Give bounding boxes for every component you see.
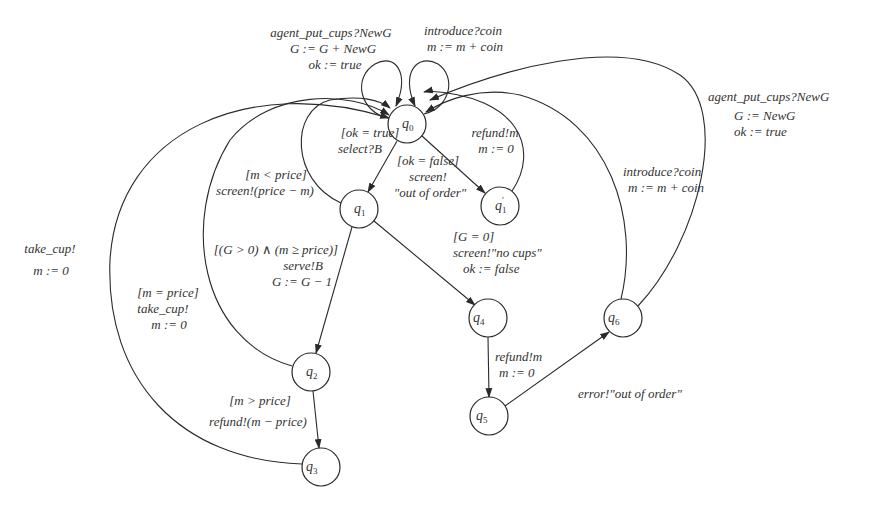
state-q4[interactable]: q 4 xyxy=(469,299,507,337)
nodes: q 0 q 1 q 1 ′ q 2 q 3 q 4 xyxy=(292,105,642,486)
label-q6-q0-coin-2: m := m + coin xyxy=(628,180,704,195)
state-q6-sub: 6 xyxy=(615,317,620,327)
edge-q2-q3 xyxy=(313,391,319,448)
label-q1-q2-2: serve!B xyxy=(283,258,323,273)
label-q1-q0-2: screen!(price − m) xyxy=(216,183,314,198)
state-diagram: q 0 q 1 q 1 ′ q 2 q 3 q 4 xyxy=(0,0,878,512)
label-q0-put-cups-2: G := G + NewG xyxy=(290,41,377,56)
state-q0-label: q xyxy=(402,116,409,131)
edge-q3-q0 xyxy=(110,104,389,464)
label-q4-q5-1: refund!m xyxy=(495,349,542,364)
state-q6[interactable]: q 6 xyxy=(604,299,642,337)
label-q1-q4-3: ok := false xyxy=(463,261,520,276)
label-q3-q0-2: m := 0 xyxy=(33,263,69,278)
edge-q4-q5 xyxy=(488,337,489,397)
state-q5[interactable]: q 5 xyxy=(470,397,508,435)
label-q2-q0-3: m := 0 xyxy=(151,317,187,332)
label-q1p-q0-1: refund!m xyxy=(471,125,518,140)
state-q1-label: q xyxy=(354,201,361,216)
label-q0-q1-2: select?B xyxy=(338,141,382,156)
state-q0-sub: 0 xyxy=(409,123,414,133)
label-q1-q0-1: [m < price] xyxy=(245,167,307,182)
label-q3-q0-1: take_cup! xyxy=(24,241,75,256)
label-q0-coin-1: introduce?coin xyxy=(424,23,502,38)
label-q0-q1p-2: screen! xyxy=(409,169,447,184)
edge-q0-q0-coin xyxy=(409,61,448,114)
state-q4-sub: 4 xyxy=(480,317,485,327)
state-q1-sub: 1 xyxy=(361,208,366,218)
label-q2-q3-1: [m > price] xyxy=(229,393,291,408)
state-q5-label: q xyxy=(476,408,483,423)
label-q6-q0-coin-1: introduce?coin xyxy=(623,164,701,179)
state-q1-prime[interactable]: q 1 ′ xyxy=(481,187,519,225)
state-q4-label: q xyxy=(473,310,480,325)
label-q1-q2-1: [(G > 0) ∧ (m ≥ price)] xyxy=(214,242,338,257)
state-q3-sub: 3 xyxy=(313,466,318,476)
label-q5-q6-1: error!"out of order" xyxy=(578,386,682,401)
state-q2[interactable]: q 2 xyxy=(292,353,330,391)
label-q1-q2-3: G := G − 1 xyxy=(272,274,332,289)
label-q0-put-cups-3: ok := true xyxy=(309,57,362,72)
state-q3-label: q xyxy=(306,459,313,474)
label-q1-q4-1: [G = 0] xyxy=(453,229,494,244)
label-q6-q0-put-cups-1: agent_put_cups?NewG xyxy=(708,89,830,104)
state-q2-label: q xyxy=(306,364,313,379)
label-q0-q1-1: [ok = true] xyxy=(341,125,400,140)
state-q1-prime-sub: 1 xyxy=(502,205,507,215)
label-q2-q3-2: refund!(m − price) xyxy=(209,414,307,429)
label-q1-q4-2: screen!"no cups" xyxy=(453,245,542,260)
label-q0-coin-2: m := m + coin xyxy=(427,39,503,54)
edge-labels: agent_put_cups?NewG G := G + NewG ok := … xyxy=(24,23,830,429)
state-q1-prime-label: q xyxy=(495,198,502,213)
state-q3[interactable]: q 3 xyxy=(302,448,340,486)
state-q1[interactable]: q 1 xyxy=(340,190,378,228)
label-q1p-q0-2: m := 0 xyxy=(478,141,514,156)
label-q6-q0-put-cups-2: G := NewG xyxy=(734,108,796,123)
label-q4-q5-2: m := 0 xyxy=(499,365,535,380)
label-q0-q1p-1: [ok = false] xyxy=(397,153,459,168)
state-q6-label: q xyxy=(608,310,615,325)
label-q2-q0-1: [m = price] xyxy=(137,285,199,300)
state-q1-prime-mark: ′ xyxy=(502,195,504,205)
label-q0-q1p-3: "out of order" xyxy=(394,185,467,200)
label-q2-q0-2: take_cup! xyxy=(137,301,188,316)
state-q2-sub: 2 xyxy=(313,371,318,381)
label-q6-q0-put-cups-3: ok := true xyxy=(734,124,787,139)
state-q5-sub: 5 xyxy=(483,415,488,425)
label-q0-put-cups-1: agent_put_cups?NewG xyxy=(270,25,392,40)
